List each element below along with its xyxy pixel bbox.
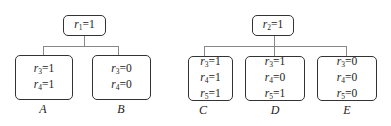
tree-2-root-node: r2=1: [252, 15, 294, 36]
node-label-d: D: [271, 103, 280, 118]
node-d: r3=1 r4=0 r5=1: [245, 56, 305, 101]
connector-line: [43, 46, 44, 55]
node-e: r3=0 r4=0 r5=0: [317, 56, 377, 101]
node-b: r3=0 r4=0: [92, 55, 151, 100]
connector-line: [118, 46, 119, 55]
node-label-a: A: [39, 102, 46, 117]
node-c: r3=1 r4=1 r5=1: [188, 56, 233, 101]
connector-line: [204, 46, 347, 47]
node-label-e: E: [343, 103, 350, 118]
node-label-c: C: [199, 103, 207, 118]
node-label-b: B: [117, 102, 124, 117]
connector-line: [43, 46, 119, 47]
tree-1-root-node: r1=1: [63, 15, 106, 36]
node-a: r3=1 r4=1: [15, 55, 73, 100]
